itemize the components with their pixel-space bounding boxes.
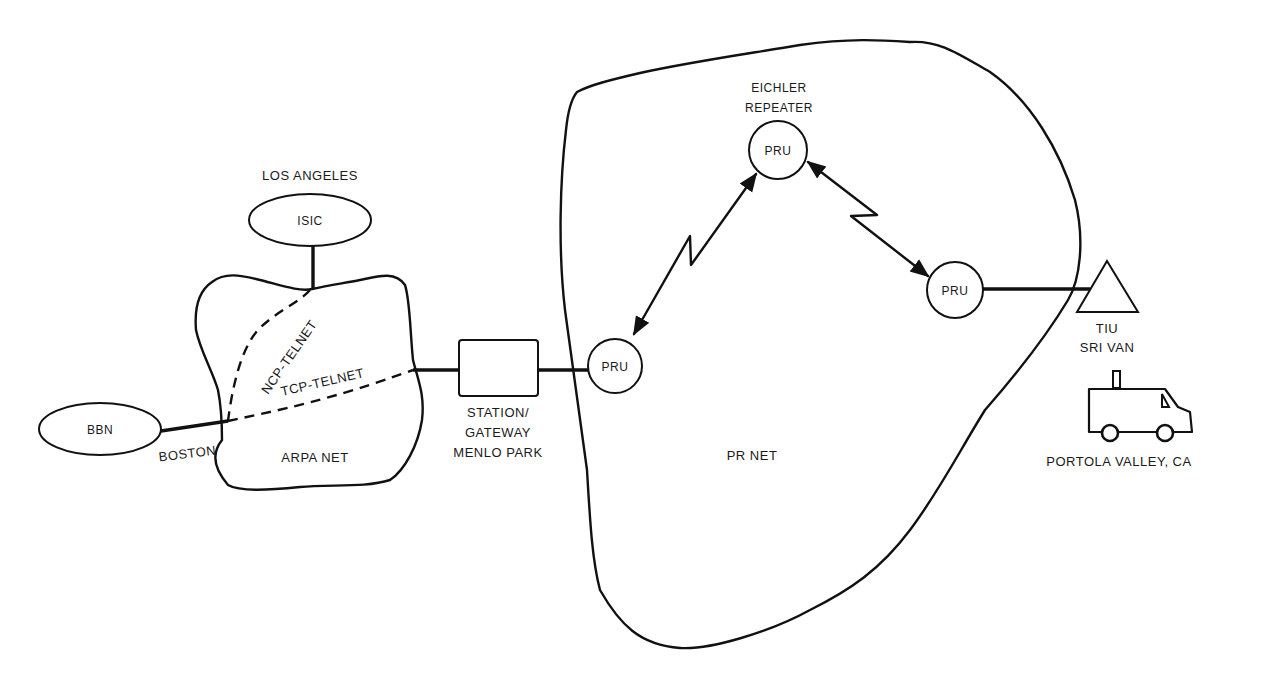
tiu-label: TIU xyxy=(1096,321,1118,336)
gateway-label-2: GATEWAY xyxy=(465,425,531,440)
isic-label: ISIC xyxy=(297,214,322,228)
repeater-label: REPEATER xyxy=(745,101,813,115)
tcp-telnet-label: TCP-TELNET xyxy=(279,365,365,399)
los-angeles-label: LOS ANGELES xyxy=(262,168,358,183)
radio-link-left xyxy=(634,174,756,334)
gateway-label-3: MENLO PARK xyxy=(453,445,542,460)
prnet-label: PR NET xyxy=(727,448,778,463)
pru-left-label: PRU xyxy=(602,360,629,374)
pru-top-label: PRU xyxy=(765,144,792,158)
gateway-box xyxy=(459,340,538,396)
eichler-label: EICHLER xyxy=(751,81,807,95)
sri-van-label: SRI VAN xyxy=(1080,340,1135,355)
gateway-label-1: STATION/ xyxy=(467,405,529,420)
prnet-boundary xyxy=(561,40,1081,648)
arpanet-label: ARPA NET xyxy=(281,450,348,465)
internet-demo-diagram: PR NET ARPA NET LOS ANGELES ISIC BBN BOS… xyxy=(0,0,1268,691)
bbn-link xyxy=(161,421,228,431)
pru-right-label: PRU xyxy=(942,284,969,298)
portola-valley-label: PORTOLA VALLEY, CA xyxy=(1046,454,1191,469)
radio-link-right xyxy=(808,162,928,276)
bbn-label: BBN xyxy=(87,423,113,437)
boston-label: BOSTON xyxy=(158,443,217,465)
tiu-triangle-icon xyxy=(1077,261,1138,312)
van-icon xyxy=(1089,371,1192,441)
